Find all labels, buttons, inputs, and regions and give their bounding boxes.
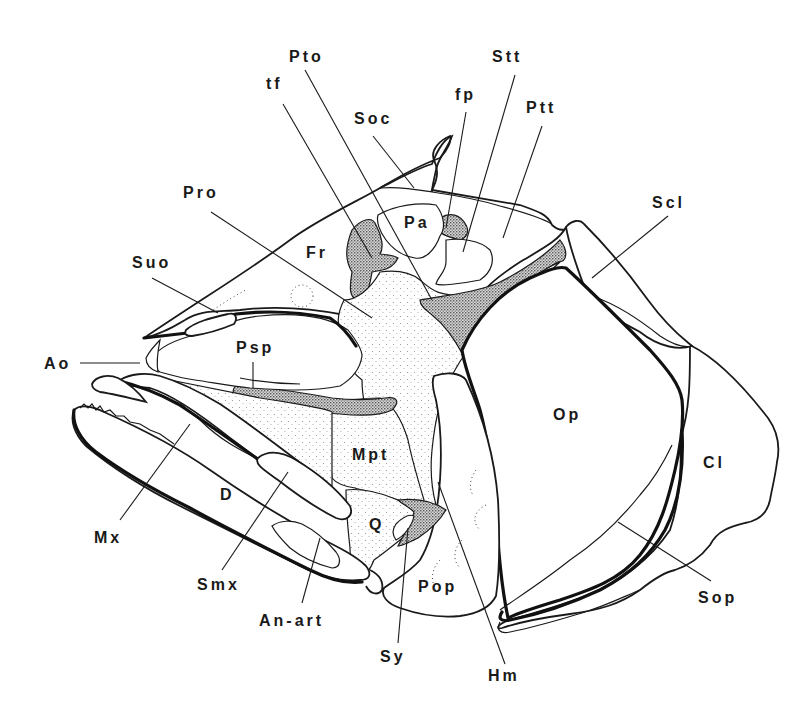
label-scl: Scl	[652, 194, 685, 211]
fish-skull-diagram: Pto Stt tf fp Soc Ptt Pro Scl Fr Pa Suo …	[0, 0, 803, 712]
skull-drawing: Pto Stt tf fp Soc Ptt Pro Scl Fr Pa Suo …	[0, 0, 803, 712]
label-psp: Psp	[236, 339, 274, 356]
label-mx: Mx	[94, 529, 122, 546]
label-tf: tf	[266, 75, 283, 92]
antorbital-bone	[146, 340, 160, 372]
label-fp: fp	[455, 86, 476, 103]
label-q: Q	[369, 516, 384, 533]
label-soc: Soc	[354, 110, 392, 127]
label-sop: Sop	[698, 589, 737, 606]
label-ptt: Ptt	[526, 99, 556, 116]
label-d: D	[220, 486, 235, 503]
label-stt: Stt	[492, 48, 522, 65]
label-an-art: An-art	[259, 612, 324, 629]
label-op: Op	[553, 406, 581, 423]
label-mpt: Mpt	[352, 446, 389, 463]
label-sy: Sy	[380, 648, 406, 665]
label-pa: Pa	[404, 214, 430, 231]
label-hm: Hm	[488, 667, 520, 684]
label-pro: Pro	[183, 184, 219, 201]
label-fr: Fr	[306, 244, 328, 261]
label-pop: Pop	[418, 578, 457, 595]
label-ao: Ao	[44, 355, 71, 372]
label-suo: Suo	[132, 254, 171, 271]
label-smx: Smx	[197, 576, 240, 593]
label-cl: Cl	[703, 454, 725, 471]
label-pto: Pto	[289, 48, 324, 65]
